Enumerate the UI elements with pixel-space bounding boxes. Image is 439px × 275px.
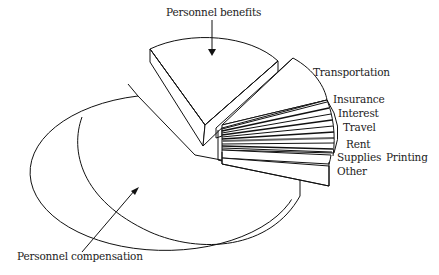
label-travel: Travel xyxy=(343,121,376,133)
label-other: Other xyxy=(337,165,367,177)
label-transportation: Transportation xyxy=(313,66,390,78)
label-printing: Printing xyxy=(386,151,428,163)
label-personnel-compensation: Personnel compensation xyxy=(17,250,143,262)
label-supplies: Supplies xyxy=(337,151,381,163)
label-interest: Interest xyxy=(338,107,379,119)
label-insurance: Insurance xyxy=(333,93,384,105)
label-rent: Rent xyxy=(346,138,370,150)
label-personnel-benefits: Personnel benefits xyxy=(166,6,261,18)
pie-chart xyxy=(0,0,439,275)
